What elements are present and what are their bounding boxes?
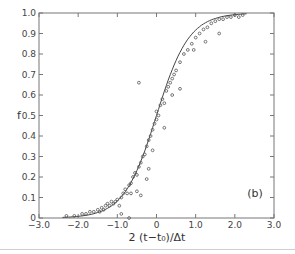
x-tick-label: 2.0 (228, 220, 243, 230)
data-point (169, 81, 172, 84)
y-tick-label: 0.7 (22, 70, 36, 80)
data-point (92, 210, 95, 213)
y-tick-label: 0.2 (22, 172, 36, 182)
x-tick-label: −1.0 (106, 220, 128, 230)
x-tick-label: −2.0 (67, 220, 89, 230)
data-point (124, 188, 127, 191)
data-point (210, 22, 213, 25)
data-point (179, 87, 182, 90)
x-tick-label: 1.0 (189, 220, 204, 230)
data-point (89, 210, 92, 213)
data-point (198, 32, 201, 35)
data-point (218, 18, 221, 21)
data-point (139, 194, 142, 197)
data-point (222, 18, 225, 21)
x-axis-label: 2 (t−t₀)/Δt (129, 231, 187, 244)
data-point (151, 149, 154, 152)
data-point (214, 20, 217, 23)
data-point (202, 28, 205, 31)
data-point (173, 73, 176, 76)
x-tick-label: 0 (154, 220, 160, 230)
data-point (206, 26, 209, 29)
data-point (157, 114, 160, 117)
data-point (186, 49, 189, 52)
y-tick-label: 0.8 (22, 49, 37, 59)
data-point (171, 77, 174, 80)
data-point (183, 53, 186, 56)
data-point (237, 16, 240, 19)
data-point (165, 90, 168, 93)
bottom-divider (0, 249, 295, 250)
y-tick-label: 0.9 (22, 29, 37, 39)
data-point (147, 167, 150, 170)
data-point (179, 61, 182, 64)
data-point (175, 69, 178, 72)
data-point (163, 102, 166, 105)
y-tick-label: 0.4 (22, 131, 37, 141)
data-point (194, 36, 197, 39)
data-point (120, 213, 123, 216)
data-point (118, 204, 121, 207)
data-point (192, 49, 195, 52)
data-point (81, 213, 84, 216)
data-point (190, 42, 193, 45)
data-point (136, 174, 139, 177)
panel-label: (b) (247, 187, 263, 200)
x-tick-label: −3.0 (28, 220, 50, 230)
chart: 00.10.20.30.40.50.60.70.80.91.0 −3.0−2.0… (0, 0, 295, 254)
data-point (130, 192, 133, 195)
y-tick-label: 0.1 (22, 193, 36, 203)
y-tick-label: 0.6 (22, 90, 37, 100)
data-point (126, 192, 129, 195)
y-axis-ticks: 00.10.20.30.40.50.60.70.80.91.0 (22, 8, 274, 223)
data-point (167, 85, 170, 88)
y-tick-label: 1.0 (22, 8, 37, 18)
data-point (218, 32, 221, 35)
x-tick-label: 3.0 (267, 220, 282, 230)
data-point (138, 81, 141, 84)
data-point (145, 178, 148, 181)
data-point (204, 40, 207, 43)
data-point (163, 126, 166, 129)
data-points (65, 14, 244, 220)
data-point (171, 94, 174, 97)
y-tick-label: 0.3 (22, 152, 36, 162)
y-tick-label: 0.5 (22, 111, 36, 121)
data-point (136, 190, 139, 193)
fit-curve (63, 14, 247, 218)
data-point (230, 16, 233, 19)
